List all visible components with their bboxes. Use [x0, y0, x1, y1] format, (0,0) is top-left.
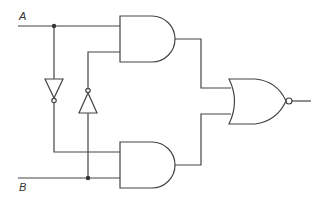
and-gate-1 — [120, 16, 175, 62]
junction-b — [86, 176, 90, 180]
nor-gate — [229, 79, 286, 124]
wire-not1-and2 — [54, 103, 120, 152]
wire-and1-nor — [175, 39, 231, 88]
wire-and2-nor — [175, 114, 231, 165]
junction-a — [52, 24, 56, 28]
nor-gate-bubble — [286, 98, 292, 104]
and-gate-2 — [120, 142, 175, 188]
wire-not2-and1 — [88, 52, 120, 88]
not-gate-1 — [45, 79, 63, 98]
not-gate-2 — [79, 93, 97, 113]
logic-circuit — [0, 0, 325, 203]
